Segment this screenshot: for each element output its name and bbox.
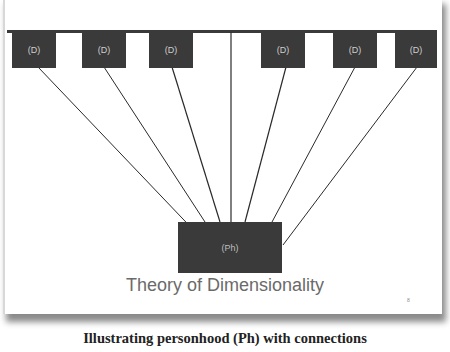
slide-number: 8	[407, 297, 410, 303]
connector-line-3	[172, 67, 220, 222]
connector-line-4	[245, 67, 286, 222]
dimension-node-label: (D)	[165, 45, 178, 55]
dimension-node-5: (D)	[333, 31, 377, 68]
dimension-node-1: (D)	[12, 31, 56, 68]
slide-title: Theory of Dimensionality	[0, 275, 450, 296]
dimension-node-label: (D)	[277, 45, 290, 55]
dimension-node-label: (D)	[349, 45, 362, 55]
dimension-node-3: (D)	[149, 31, 193, 68]
dimension-node-label: (D)	[98, 45, 111, 55]
dimension-node-label: (D)	[410, 45, 423, 55]
personhood-node-label: (Ph)	[221, 243, 238, 253]
figure-caption: Illustrating personhood (Ph) with connec…	[0, 330, 450, 347]
dimension-node-6: (D)	[395, 31, 437, 68]
dimension-node-2: (D)	[82, 31, 126, 68]
connection-lines	[0, 0, 450, 352]
connector-line-5	[272, 67, 355, 222]
dimension-node-label: (D)	[28, 45, 41, 55]
dimension-node-4: (D)	[261, 31, 305, 68]
connector-line-6	[283, 67, 417, 245]
connector-line-2	[104, 67, 205, 222]
personhood-node: (Ph)	[178, 222, 282, 273]
